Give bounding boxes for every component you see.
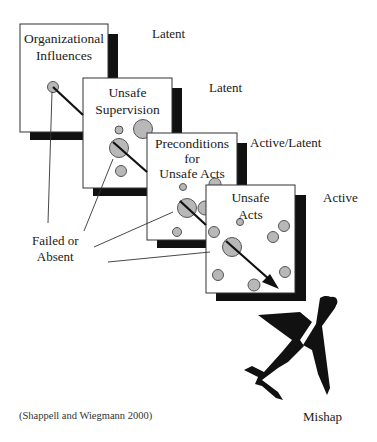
layer-title-supervision: Unsafe Supervision (83, 84, 172, 118)
failed-or-absent-label: Failed or Absent (32, 233, 79, 265)
layer-title-organizational: Organizational Influences (20, 30, 108, 64)
citation: (Shappell and Wiegmann 2000) (19, 410, 152, 421)
level-label-supervision: Latent (209, 80, 242, 96)
level-label-organizational: Latent (152, 26, 185, 42)
layer-title-unsafe-acts: Unsafe Acts (206, 189, 295, 223)
layer-title-preconditions: Preconditions for Unsafe Acts (147, 136, 237, 181)
diagram-canvas (0, 0, 377, 442)
level-label-preconditions: Active/Latent (250, 135, 321, 151)
mishap-label: Mishap (303, 409, 342, 425)
broken-airplane-icon (244, 296, 337, 400)
level-label-unsafe-acts: Active (323, 190, 358, 206)
